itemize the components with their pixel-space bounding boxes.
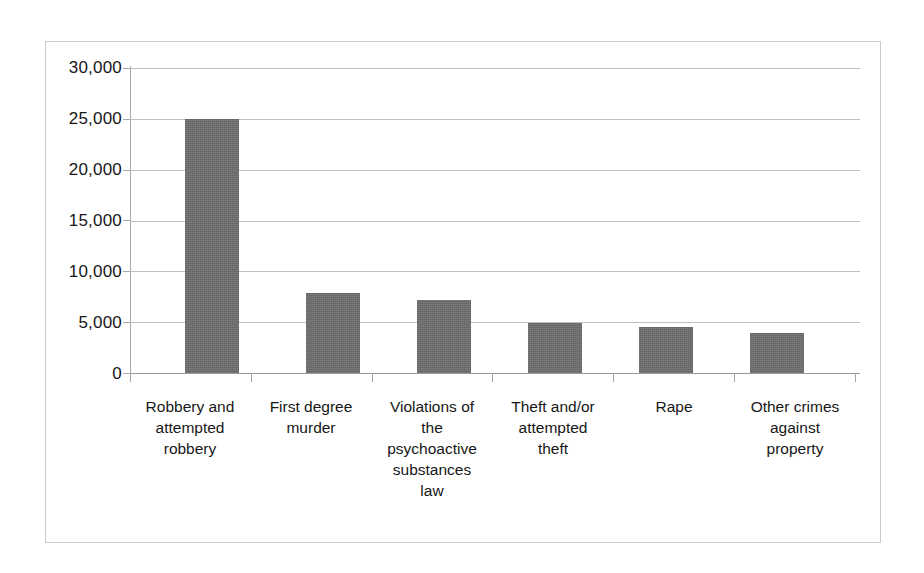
bar-first-degree-murder[interactable]	[306, 293, 360, 373]
category-label-line: Violations of	[368, 396, 496, 417]
category-label-line: Theft and/or	[489, 396, 617, 417]
x-axis-category-label: Rape	[610, 396, 738, 417]
category-label-line: psychoactive	[368, 438, 496, 459]
y-tick-label: 5,000	[36, 313, 122, 333]
category-label-line: robbery	[126, 438, 254, 459]
x-axis-baseline	[130, 373, 860, 374]
bar-theft-and-or-attempted-theft[interactable]	[528, 323, 582, 373]
category-label-line: substances	[368, 459, 496, 480]
category-label-line: theft	[489, 438, 617, 459]
y-axis-tick-labels: 30,000 25,000 20,000 15,000 10,000 5,000…	[22, 0, 122, 573]
category-label-line: First degree	[247, 396, 375, 417]
y-tick-label: 20,000	[36, 160, 122, 180]
x-axis-tick	[251, 373, 252, 382]
category-label-line: Rape	[610, 396, 738, 417]
plot-area	[130, 68, 860, 373]
x-axis-category-label: Other crimes against property	[731, 396, 859, 459]
gridline-25000	[130, 119, 860, 120]
x-axis-tick	[130, 373, 131, 382]
bar-rape[interactable]	[639, 327, 693, 373]
x-axis-category-label: First degree murder	[247, 396, 375, 438]
x-axis-tick	[734, 373, 735, 382]
category-label-line: property	[731, 438, 859, 459]
y-tick-label: 15,000	[36, 211, 122, 231]
category-label-line: against	[731, 417, 859, 438]
y-tick-label: 10,000	[36, 262, 122, 282]
x-axis-tick	[372, 373, 373, 382]
category-label-line: law	[368, 480, 496, 501]
category-label-line: the	[368, 417, 496, 438]
x-axis-tick	[492, 373, 493, 382]
gridline-10000	[130, 271, 860, 272]
y-tick-label: 30,000	[36, 58, 122, 78]
y-tick-label: 0	[36, 364, 122, 384]
category-label-line: attempted	[126, 417, 254, 438]
x-axis-category-label: Robbery and attempted robbery	[126, 396, 254, 459]
category-label-line: attempted	[489, 417, 617, 438]
x-axis-tick	[855, 373, 856, 382]
bar-other-crimes-against-property[interactable]	[750, 333, 804, 373]
gridline-5000	[130, 322, 860, 323]
category-label-line: Other crimes	[731, 396, 859, 417]
gridline-30000	[130, 68, 860, 69]
category-label-line: Robbery and	[126, 396, 254, 417]
gridline-20000	[130, 170, 860, 171]
y-tick-label: 25,000	[36, 109, 122, 129]
gridline-15000	[130, 221, 860, 222]
x-axis-tick	[613, 373, 614, 382]
x-axis-category-label: Theft and/or attempted theft	[489, 396, 617, 459]
x-axis-category-label: Violations of the psychoactive substance…	[368, 396, 496, 501]
category-label-line: murder	[247, 417, 375, 438]
bar-violations-of-the-psychoactive-substances-law[interactable]	[417, 300, 471, 373]
bar-robbery-and-attempted-robbery[interactable]	[185, 119, 239, 373]
